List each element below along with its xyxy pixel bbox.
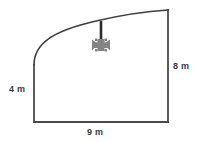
- geometry-figure: 4 m 8 m 9 m: [0, 0, 200, 142]
- figure-canvas: [0, 0, 200, 142]
- right-side-dimension-label: 8 m: [173, 62, 189, 71]
- bottom-side-dimension-label: 9 m: [87, 128, 103, 137]
- left-side-dimension-label: 4 m: [9, 85, 25, 94]
- star-burst-marker-icon: [92, 39, 110, 52]
